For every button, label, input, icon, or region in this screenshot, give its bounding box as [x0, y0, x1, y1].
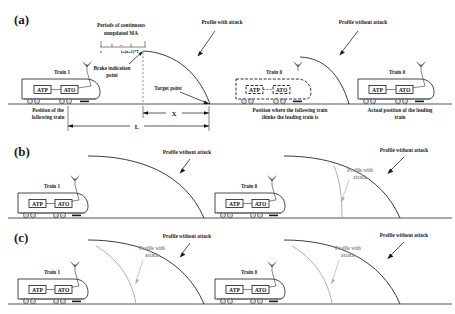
panel-c: (c) Profile without attack Profile witho…: [0, 228, 455, 314]
atp-label-c1: ATP: [32, 287, 43, 293]
atp-label-b2: ATP: [229, 201, 240, 207]
profile-without-attack-label-b-left: Profile without attack: [163, 149, 211, 155]
train-1-name-c: Train 1: [44, 269, 61, 275]
ato-label-b1: ATO: [58, 201, 70, 207]
train-1-a: ATP ATO Train 1: [22, 62, 100, 104]
profile-with-attack-label-c-left-line1: Profile with: [139, 245, 165, 251]
timeline-tick-end: t+(n+1)*T: [121, 49, 139, 54]
ato-label-a2: ATO: [276, 87, 288, 93]
timeline-tick-start: t: [100, 49, 102, 54]
ma-caption-line2: unupdated MA: [104, 30, 138, 36]
profile-with-attack-leader-b: [341, 180, 349, 202]
profile-with-attack-label-c-left-line2: attack: [145, 252, 159, 258]
dimension-x-label: X: [172, 110, 177, 117]
train-0-name-c: Train 0: [241, 269, 258, 275]
profile-with-attack-curve-a: [143, 51, 210, 104]
profile-with-attack-leader-a: [197, 31, 215, 56]
timeline-tick-mid: ...: [119, 42, 122, 47]
train-0-caption-line2-a: thinks the leading train is: [262, 114, 319, 120]
train-0-actual-a: ATP ATO Train 0: [358, 62, 434, 104]
profile-without-attack-curve-b-left: [88, 156, 204, 218]
profile-with-attack-curve-c-left: [96, 246, 136, 304]
train-0-caption-line2-actual-a: train: [395, 114, 406, 120]
train-1-caption-line2-a: following train: [32, 114, 65, 120]
profile-with-attack-label-b-line2: attack: [353, 174, 367, 180]
antenna-icon-c2: [268, 262, 277, 271]
train-0-phantom-a: ATP ATO Train 0: [236, 62, 311, 104]
atp-label-a3: ATP: [372, 87, 383, 93]
ma-timeline: t ... t+(n+1)*T: [100, 41, 146, 54]
panel-a-drawing: t ... t+(n+1)*T Periods of continuous un…: [0, 0, 455, 140]
train-1-body-c: [18, 279, 88, 299]
train-0-name-actual-a: Train 0: [389, 69, 406, 75]
profile-without-attack-leader-b-right: [387, 157, 404, 174]
antenna-icon-a2: [294, 62, 303, 71]
dimension-l: L: [68, 106, 209, 131]
profile-with-attack-label-c-right-line2: attack: [341, 252, 355, 258]
profile-with-attack-leader-c-right: [331, 260, 339, 284]
panel-c-drawing: Profile without attack Profile without a…: [0, 228, 455, 314]
train-1-b: ATP ATO Train 1: [18, 176, 88, 218]
profile-without-attack-label-b-right: Profile without attack: [380, 147, 428, 153]
dimension-l-label: L: [135, 123, 139, 130]
train-0-c: ATP ATO Train 0: [215, 262, 285, 304]
profile-with-attack-leader-c-left: [135, 260, 143, 284]
profile-with-attack-label-a: Profile with attack: [201, 19, 242, 25]
ato-label-b2: ATO: [255, 201, 267, 207]
train-0-caption-line1-a: Position where the following train: [253, 107, 328, 113]
ato-label-c1: ATO: [58, 287, 70, 293]
ato-label-c2: ATO: [255, 287, 267, 293]
ato-label-a1: ATO: [64, 87, 76, 93]
profile-without-attack-leader-b-left: [180, 159, 190, 173]
train-0-body-b: [215, 193, 285, 213]
panel-b: (b) Profile without attack Profile witho…: [0, 140, 455, 228]
target-point-label: Target point: [154, 85, 182, 91]
train-1-c: ATP ATO Train 1: [18, 262, 88, 304]
train-1-body-b: [18, 193, 88, 213]
profile-without-attack-leader-a: [339, 31, 358, 55]
antenna-icon-a3: [417, 62, 426, 71]
profile-without-attack-label-c-left: Profile without attack: [163, 233, 211, 239]
antenna-icon-b2: [268, 176, 277, 185]
antenna-icon-b1: [71, 176, 80, 185]
train-0-caption-line1-actual-a: Actual position of the leading: [368, 107, 433, 113]
train-0-name-b: Train 0: [241, 183, 258, 189]
atp-label-a1: ATP: [37, 87, 48, 93]
profile-without-attack-leader-c-left: [180, 243, 190, 257]
panel-a: (a) t ... t+(n+1)*T Periods of continuou…: [0, 0, 455, 140]
profile-without-attack-leader-c-right: [387, 242, 404, 259]
train-0-body-c: [215, 279, 285, 299]
train-0-b: ATP ATO Train 0: [215, 176, 285, 218]
atp-label-a2: ATP: [249, 87, 260, 93]
ato-label-a3: ATO: [399, 87, 411, 93]
train-0-name-phantom-a: Train 0: [266, 69, 283, 75]
dimension-x: X: [143, 109, 209, 118]
profile-with-attack-label-c-right-line1: Profile with: [335, 245, 361, 251]
brake-indication-label-line1: Brake indication: [93, 65, 130, 71]
train-1-name-b: Train 1: [44, 183, 61, 189]
ma-caption-line1: Periods of continuous: [97, 22, 145, 28]
train-1-caption-line1-a: Position of the: [32, 107, 64, 113]
atp-label-c2: ATP: [229, 287, 240, 293]
antenna-icon-a1: [83, 62, 92, 71]
antenna-icon-c1: [71, 262, 80, 271]
panel-b-drawing: Profile without attack Profile without a…: [0, 140, 455, 228]
profile-with-attack-label-b-line1: Profile with: [347, 167, 373, 173]
profile-without-attack-label-a: Profile without attack: [339, 19, 387, 25]
profile-with-attack-curve-b: [334, 166, 342, 218]
profile-with-attack-curve-c-right: [292, 246, 332, 304]
profile-without-attack-label-c-right: Profile without attack: [380, 232, 428, 238]
brake-indication-label-line2: point: [106, 72, 118, 78]
train-1-name-a: Train 1: [54, 69, 71, 75]
atp-label-b1: ATP: [32, 201, 43, 207]
